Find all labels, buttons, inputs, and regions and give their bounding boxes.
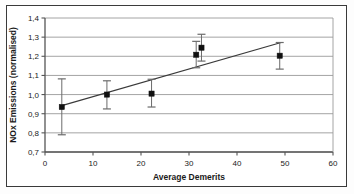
data-point-marker <box>149 91 154 96</box>
y-tick-label: 0,8 <box>28 129 40 138</box>
x-tick-label: 10 <box>89 159 98 168</box>
x-tick-label: 60 <box>329 159 338 168</box>
y-tick-label: 1,4 <box>28 14 40 23</box>
data-point-marker <box>104 92 109 97</box>
nox-emissions-scatter-chart: 0,70,80,91,01,11,21,31,4 0102030405060 A… <box>0 0 354 194</box>
x-tick-label: 20 <box>137 159 146 168</box>
y-tick-label: 1,2 <box>28 52 40 61</box>
x-tick-label: 50 <box>281 159 290 168</box>
data-point-marker <box>277 53 282 58</box>
data-point-marker <box>199 45 204 50</box>
y-tick-label: 1,1 <box>28 71 40 80</box>
x-tick-label: 0 <box>43 159 48 168</box>
plot-area-background <box>45 18 333 152</box>
data-point-marker <box>59 104 64 109</box>
x-axis-tick-labels: 0102030405060 <box>43 159 338 168</box>
x-tick-label: 30 <box>185 159 194 168</box>
y-tick-label: 0,7 <box>28 148 40 157</box>
data-point-marker <box>194 52 199 57</box>
y-tick-label: 1,0 <box>28 91 40 100</box>
y-tick-label: 1,3 <box>28 33 40 42</box>
x-tick-label: 40 <box>233 159 242 168</box>
y-axis-title: NOx Emissions (normalised) <box>8 27 18 143</box>
y-tick-label: 0,9 <box>28 110 40 119</box>
y-axis-tick-labels: 0,70,80,91,01,11,21,31,4 <box>28 14 40 157</box>
chart-figure: 0,70,80,91,01,11,21,31,4 0102030405060 A… <box>0 0 354 194</box>
x-axis-title: Average Demerits <box>153 172 225 182</box>
